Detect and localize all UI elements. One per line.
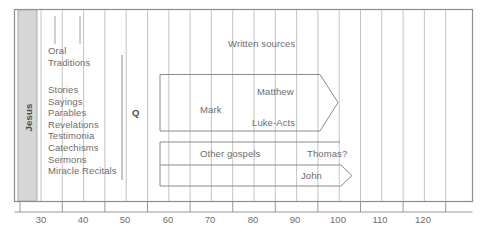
list-item: Catechisms — [48, 142, 117, 154]
list-item: Sayings — [48, 96, 117, 108]
oral-traditions-line-1: Oral — [48, 45, 90, 57]
list-item: Revelations — [48, 119, 117, 131]
axis-tick-label: 30 — [24, 214, 58, 225]
axis-tick-label: 50 — [108, 214, 142, 225]
matthew-label: Matthew — [257, 86, 294, 97]
jesus-label: Jesus — [23, 100, 34, 136]
list-item: Testimonia — [48, 130, 117, 142]
oral-traditions-label: Oral Traditions — [48, 45, 90, 68]
john-label: John — [301, 170, 322, 181]
axis-ticks — [15, 202, 473, 213]
axis-tick-label: 40 — [66, 214, 100, 225]
written-sources-label: Written sources — [228, 38, 295, 49]
oral-traditions-line-2: Traditions — [48, 57, 90, 69]
q-label: Q — [132, 107, 139, 118]
timeline-diagram: Jesus Oral Traditions Stories Sayings Pa… — [0, 0, 486, 245]
axis-tick-label: 110 — [363, 214, 397, 225]
list-item: Sermons — [48, 154, 117, 166]
axis-tick-label: 90 — [278, 214, 312, 225]
thomas-label: Thomas? — [307, 148, 347, 159]
other-gospels-label: Other gospels — [200, 148, 260, 159]
luke-acts-label: Luke-Acts — [252, 117, 295, 128]
axis-tick-label: 120 — [406, 214, 440, 225]
axis-tick-label: 70 — [193, 214, 227, 225]
list-item: Stories — [48, 84, 117, 96]
list-item: Miracle Recitals — [48, 165, 117, 177]
axis-tick-label: 80 — [236, 214, 270, 225]
axis-tick-label: 60 — [151, 214, 185, 225]
axis-tick-label: 100 — [321, 214, 355, 225]
list-item: Parables — [48, 107, 117, 119]
mark-label: Mark — [200, 104, 222, 115]
oral-forms-list: Stories Sayings Parables Revelations Tes… — [48, 84, 117, 177]
